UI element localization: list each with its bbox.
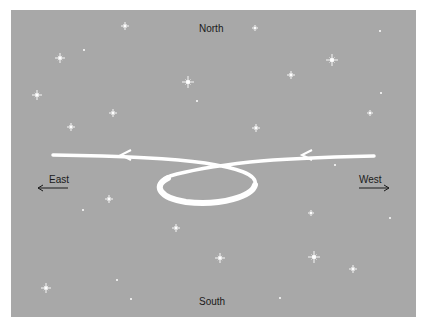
star-icon (379, 30, 381, 32)
path-arrow-left-icon (121, 150, 131, 160)
loop-thick-bottom (160, 178, 255, 203)
south-label: South (199, 296, 225, 307)
star-icon (334, 164, 336, 166)
star-icon (55, 53, 65, 63)
star-icon (196, 100, 198, 102)
star-icon (32, 90, 42, 100)
star-icon (367, 110, 373, 116)
star-icon (279, 297, 281, 299)
east-label: East (49, 174, 69, 185)
retrograde-loop (53, 155, 374, 203)
star-icon (109, 109, 117, 117)
north-label: North (199, 23, 223, 34)
star-icon (83, 49, 85, 51)
star-icon (287, 71, 295, 79)
star-icon (130, 298, 132, 300)
star-icon (308, 251, 320, 263)
west-label: West (359, 174, 382, 185)
star-icon (82, 209, 84, 211)
star-icon (41, 283, 51, 293)
star-icon (349, 265, 357, 273)
star-icon (105, 195, 113, 203)
retrograde-diagram (0, 0, 425, 329)
star-icon (380, 92, 382, 94)
star-icon (308, 210, 314, 216)
star-icon (252, 124, 260, 132)
star-icon (389, 217, 391, 219)
star-icon (326, 54, 338, 66)
star-icon (172, 224, 180, 232)
star-icon (116, 279, 118, 281)
star-icon (252, 25, 258, 31)
star-icon (215, 253, 225, 263)
star-icon (121, 22, 129, 30)
star-icon (182, 76, 194, 88)
background-stars (32, 22, 391, 300)
star-icon (67, 123, 75, 131)
